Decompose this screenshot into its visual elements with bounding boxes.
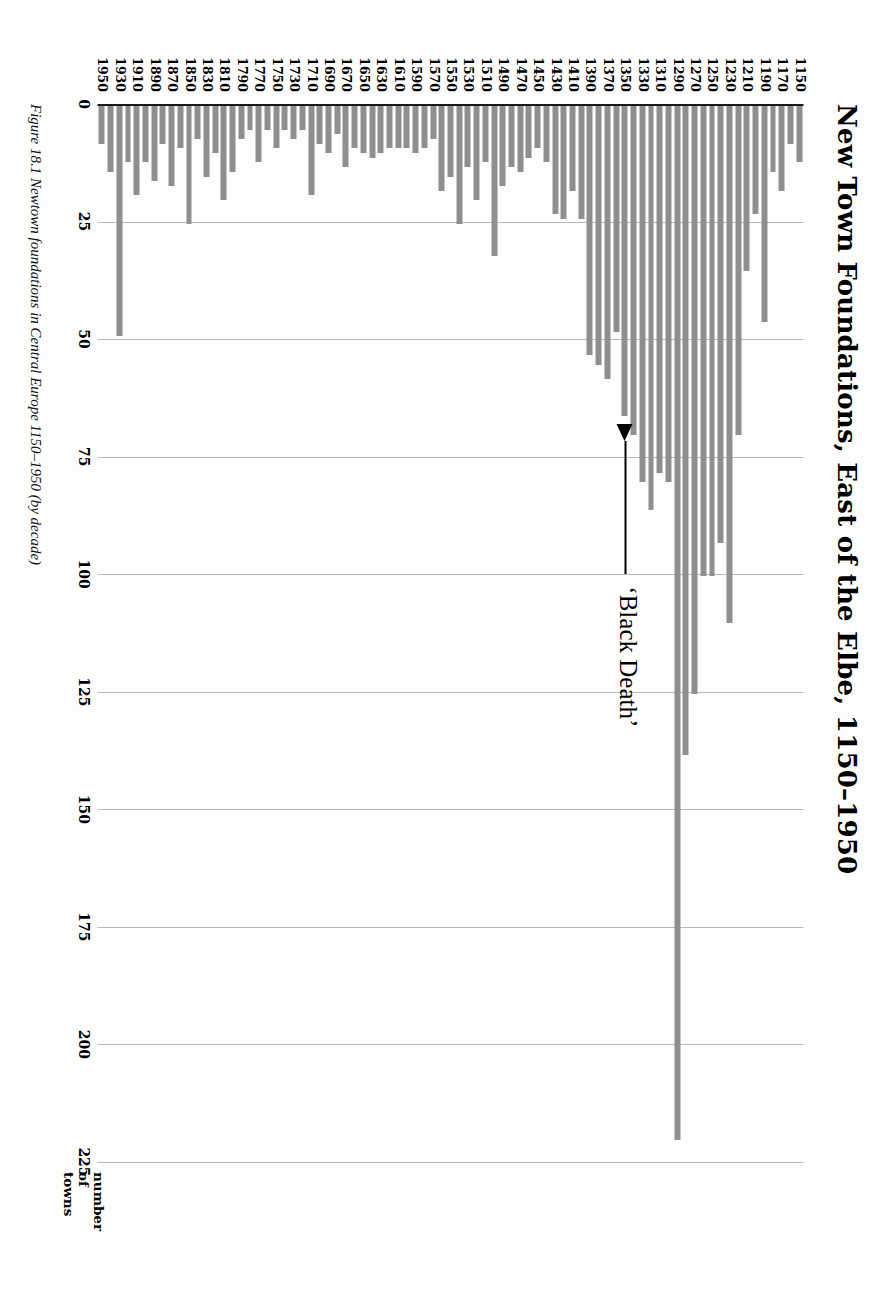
bar [595, 106, 601, 365]
bar [430, 106, 436, 139]
bar [212, 106, 218, 153]
tick-label: 175 [75, 912, 91, 941]
bar [552, 106, 558, 214]
bar [281, 106, 287, 130]
category-label: 1770 [252, 0, 264, 92]
tick-label: 0 [75, 99, 91, 109]
category-label: 1530 [461, 0, 473, 92]
category-label: 1630 [374, 0, 386, 92]
arrow-shaft [624, 441, 626, 574]
category-label: 1830 [200, 0, 212, 92]
category-label: 1570 [427, 0, 439, 92]
bar [186, 106, 192, 224]
category-label: 1390 [583, 0, 595, 92]
category-label: 1330 [636, 0, 648, 92]
category-label: 1250 [705, 0, 717, 92]
category-label: 1650 [357, 0, 369, 92]
bar [761, 106, 767, 322]
bar [787, 106, 793, 144]
bar [709, 106, 715, 576]
bar [587, 106, 593, 355]
bar [543, 106, 549, 162]
bar [473, 106, 479, 200]
bar [395, 106, 401, 148]
bar [700, 106, 706, 576]
bar [220, 106, 226, 200]
bar [403, 106, 409, 148]
category-label: 1810 [217, 0, 229, 92]
bar [726, 106, 732, 623]
bar [299, 106, 305, 130]
category-label: 1310 [653, 0, 665, 92]
bar [290, 106, 296, 139]
value-axis-tick-labels: 0255075100125150175200225 [57, 104, 97, 1162]
bar [778, 106, 784, 191]
bar [604, 106, 610, 379]
bar [674, 106, 680, 1140]
bar [508, 106, 514, 167]
figure-caption: Figure 18.1 Newtown foundations in Centr… [26, 104, 43, 565]
bar [447, 106, 453, 177]
bar [98, 106, 104, 144]
bar [334, 106, 340, 134]
tick-label: 25 [75, 212, 91, 231]
bar [482, 106, 488, 162]
category-label: 1750 [270, 0, 282, 92]
category-label: 1930 [113, 0, 125, 92]
bar [578, 106, 584, 219]
bar [177, 106, 183, 148]
bar [229, 106, 235, 172]
category-label: 1510 [479, 0, 491, 92]
bar [203, 106, 209, 177]
bar [560, 106, 566, 219]
bar [639, 106, 645, 482]
bar [621, 106, 627, 416]
category-label: 1230 [723, 0, 735, 92]
category-label: 1490 [496, 0, 508, 92]
category-label: 1950 [95, 0, 107, 92]
tick-label: 200 [75, 1030, 91, 1059]
chart-title: New Town Foundations, East of the Elbe, … [831, 104, 861, 874]
category-label: 1710 [305, 0, 317, 92]
category-label: 1410 [566, 0, 578, 92]
bar [796, 106, 802, 162]
bar [264, 106, 270, 130]
value-axis-line [97, 104, 803, 106]
category-label: 1430 [549, 0, 561, 92]
category-label: 1690 [322, 0, 334, 92]
category-label: 1550 [444, 0, 456, 92]
black-death-annotation-label: ‘Black Death’ [613, 586, 641, 727]
category-label: 1910 [130, 0, 142, 92]
bar [735, 106, 741, 435]
bar [630, 106, 636, 435]
arrow-head [616, 424, 632, 441]
category-label: 1270 [688, 0, 700, 92]
category-label: 1290 [671, 0, 683, 92]
category-label: 1470 [514, 0, 526, 92]
bar [691, 106, 697, 694]
category-label: 1590 [409, 0, 421, 92]
bar [534, 106, 540, 148]
bar [569, 106, 575, 191]
bar-chart-figure: New Town Foundations, East of the Elbe, … [0, 0, 895, 1294]
plot-area [97, 104, 803, 1162]
bar [456, 106, 462, 224]
bar [665, 106, 671, 482]
bar [255, 106, 261, 162]
bar [168, 106, 174, 186]
bar [526, 106, 532, 158]
category-label: 1670 [339, 0, 351, 92]
bar [770, 106, 776, 172]
category-label: 1150 [793, 0, 805, 92]
bar [613, 106, 619, 332]
bar [342, 106, 348, 167]
bar [308, 106, 314, 195]
category-axis-labels: 1150117011901210123012501270129013101330… [97, 0, 803, 100]
category-label: 1870 [165, 0, 177, 92]
figure-rotation-wrapper: New Town Foundations, East of the Elbe, … [0, 0, 895, 1294]
category-label: 1890 [148, 0, 160, 92]
category-label: 1450 [531, 0, 543, 92]
bar [159, 106, 165, 144]
bar [412, 106, 418, 153]
bar [499, 106, 505, 186]
